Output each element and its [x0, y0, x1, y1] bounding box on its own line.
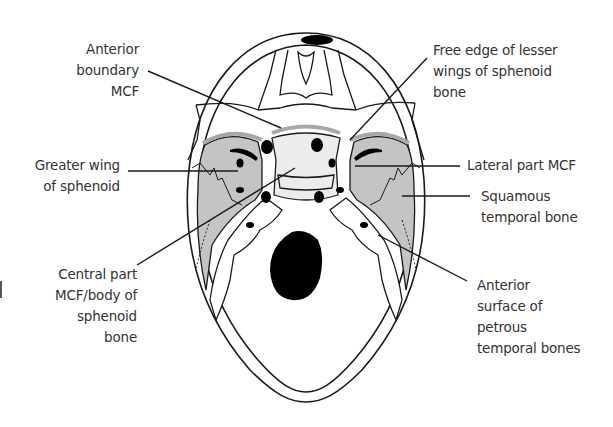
- label-anterior-boundary: Anterior boundary MCF: [76, 39, 139, 102]
- label-line: Anterior: [477, 275, 580, 296]
- label-line: MCF/body of: [55, 285, 137, 306]
- label-line: Anterior: [76, 39, 139, 60]
- label-line: wings of sphenoid: [433, 61, 557, 82]
- label-free-edge-lesser-wings: Free edge of lesser wings of sphenoid bo…: [433, 40, 557, 103]
- label-line: temporal bone: [481, 207, 578, 228]
- label-line: bone: [433, 82, 557, 103]
- label-line: bone: [55, 327, 137, 348]
- label-line: temporal bones: [477, 338, 580, 359]
- label-line: Free edge of lesser: [433, 40, 557, 61]
- label-line: of sphenoid: [35, 176, 120, 197]
- label-anterior-surface-petrous: Anterior surface of petrous temporal bon…: [477, 275, 580, 359]
- label-lateral-part-mcf: Lateral part MCF: [467, 155, 576, 176]
- label-central-part-mcf: Central part MCF/body of sphenoid bone: [55, 264, 137, 348]
- label-line: sphenoid: [55, 306, 137, 327]
- label-line: petrous: [477, 317, 580, 338]
- label-line: surface of: [477, 296, 580, 317]
- edge-mark: [0, 281, 2, 298]
- label-line: MCF: [76, 81, 139, 102]
- frontal-sinus: [301, 35, 333, 45]
- label-line: Squamous: [481, 186, 578, 207]
- foramen-magnum: [270, 231, 322, 300]
- label-squamous-temporal: Squamous temporal bone: [481, 186, 578, 228]
- label-line: boundary: [76, 60, 139, 81]
- label-greater-wing: Greater wing of sphenoid: [35, 155, 120, 197]
- label-line: Lateral part MCF: [467, 155, 576, 176]
- label-line: Central part: [55, 264, 137, 285]
- label-line: Greater wing: [35, 155, 120, 176]
- sphenoid-body: [272, 133, 340, 200]
